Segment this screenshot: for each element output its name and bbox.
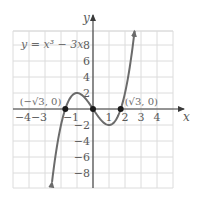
intercept-point: [118, 106, 124, 112]
point-label: (−√3, 0): [20, 96, 62, 107]
equation-label: y = x³ − 3x: [20, 38, 84, 51]
x-tick-label: 3: [138, 111, 145, 124]
intercept-point: [90, 106, 96, 112]
y-tick-label: 8: [83, 39, 90, 52]
y-tick-label: −6: [74, 151, 90, 164]
point-label: (√3, 0): [125, 96, 158, 107]
y-tick-label: 4: [83, 71, 90, 84]
x-axis-label: x: [183, 110, 190, 124]
y-tick-label: −8: [74, 167, 90, 180]
x-tick-label: 2: [122, 111, 129, 124]
intercept-point: [62, 106, 68, 112]
x-tick-label: −4: [15, 111, 31, 124]
y-tick-label: 6: [83, 55, 90, 68]
x-tick-label: −3: [31, 111, 47, 124]
y-axis-label: y: [82, 11, 90, 25]
y-tick-label: −2: [74, 119, 90, 132]
cubic-function-graph: x y −4−3−11234 8642−2−4−6−8 (−√3, 0)(√3,…: [0, 0, 201, 199]
x-tick-label: 1: [106, 111, 113, 124]
y-tick-label: −4: [74, 135, 90, 148]
x-tick-label: 4: [154, 111, 161, 124]
